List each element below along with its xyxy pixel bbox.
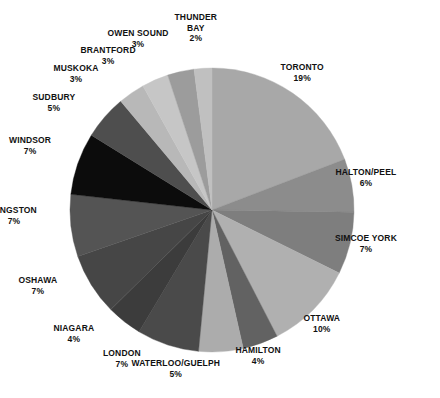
- pie-label-halton-peel: HALTON/PEEL6%: [336, 167, 397, 188]
- pie-label-name: SUDBURY: [33, 92, 76, 103]
- pie-label-muskoka: MUSKOKA3%: [54, 63, 99, 84]
- pie-label-percent: 3%: [54, 74, 99, 85]
- pie-label-name: THUNDER: [175, 12, 218, 23]
- pie-label-toronto: TORONTO19%: [281, 62, 324, 83]
- pie-label-percent: 7%: [19, 286, 58, 297]
- pie-label-percent: 7%: [0, 216, 37, 227]
- pie-label-percent: 19%: [281, 73, 324, 84]
- pie-label-thunder: THUNDERBAY2%: [175, 12, 218, 44]
- pie-label-percent: 5%: [132, 369, 221, 380]
- pie-label-windsor: WINDSOR7%: [9, 135, 51, 156]
- pie-label-name: SIMCOE YORK: [335, 233, 397, 244]
- pie-label-percent: 4%: [236, 356, 281, 367]
- pie-label-niagara: NIAGARA4%: [54, 323, 95, 344]
- pie-label-percent: 7%: [335, 244, 397, 255]
- pie-label-percent: 10%: [304, 324, 341, 335]
- pie-label-percent: 2%: [175, 33, 218, 44]
- pie-label-name: LONDON: [103, 348, 141, 359]
- pie-label-name: OTTAWA: [304, 313, 341, 324]
- pie-label-name: KINGSTON: [0, 205, 37, 216]
- pie-label-name-line2: BAY: [175, 23, 218, 34]
- pie-label-sudbury: SUDBURY5%: [33, 92, 76, 113]
- pie-label-simcoe-york: SIMCOE YORK7%: [335, 233, 397, 254]
- pie-label-waterloo-guelph: WATERLOO/GUELPH5%: [132, 358, 221, 379]
- pie-label-percent: 5%: [33, 103, 76, 114]
- pie-label-percent: 4%: [54, 334, 95, 345]
- pie-label-name: HAMILTON: [236, 345, 281, 356]
- pie-label-percent: 6%: [336, 178, 397, 189]
- pie-label-name: HALTON/PEEL: [336, 167, 397, 178]
- pie-label-percent: 7%: [9, 146, 51, 157]
- pie-label-name: WINDSOR: [9, 135, 51, 146]
- pie-label-name: MUSKOKA: [54, 63, 99, 74]
- pie-label-name: NIAGARA: [54, 323, 95, 334]
- pie-label-oshawa: OSHAWA7%: [19, 275, 58, 296]
- pie-label-hamilton: HAMILTON4%: [236, 345, 281, 366]
- pie-label-name: OSHAWA: [19, 275, 58, 286]
- pie-chart-figure: THUNDERBAY2%OWEN SOUND3%BRANTFORD3%MUSKO…: [0, 0, 440, 398]
- pie-label-name: OWEN SOUND: [108, 28, 169, 39]
- pie-label-ottawa: OTTAWA10%: [304, 313, 341, 334]
- pie-label-name: WATERLOO/GUELPH: [132, 358, 221, 369]
- pie-label-name: BRANTFORD: [81, 45, 136, 56]
- pie-label-kingston: KINGSTON7%: [0, 205, 37, 226]
- pie-label-name: TORONTO: [281, 62, 324, 73]
- pie-slice-group: [70, 68, 354, 352]
